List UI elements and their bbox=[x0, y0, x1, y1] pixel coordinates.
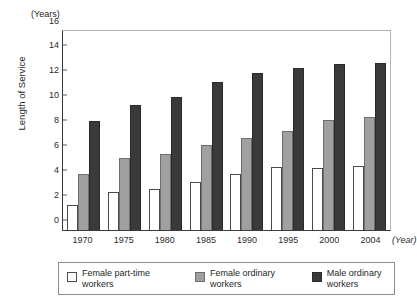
x-axis-tick-label: 2000 bbox=[309, 233, 350, 249]
legend-label-line2: workers bbox=[327, 279, 382, 290]
legend-label-line2: workers bbox=[82, 279, 150, 290]
legend-label-line1: Male ordinary bbox=[327, 268, 382, 278]
legend-entry[interactable]: Male ordinaryworkers bbox=[304, 268, 394, 290]
y-axis-title: Length of Service bbox=[16, 29, 27, 159]
bar[interactable] bbox=[108, 192, 119, 230]
x-axis-unit-label: (Year) bbox=[392, 233, 417, 247]
y-axis-tick: 0 bbox=[54, 214, 63, 225]
x-axis-tick-label: 1990 bbox=[227, 233, 268, 249]
bar[interactable] bbox=[149, 189, 160, 230]
legend-label: Male ordinaryworkers bbox=[327, 268, 382, 290]
bar-group bbox=[104, 31, 145, 230]
chart-legend: Female part-timeworkersFemale ordinarywo… bbox=[58, 262, 395, 295]
x-axis-tick-label: 1975 bbox=[103, 233, 144, 249]
x-axis-ticks: 19701975198019851990199520002004 bbox=[62, 233, 391, 249]
y-axis-tick: 4 bbox=[54, 164, 63, 175]
y-axis-tick: 8 bbox=[54, 114, 63, 125]
legend-swatch-icon bbox=[312, 272, 322, 282]
x-axis-tick-label: 1970 bbox=[62, 233, 103, 249]
y-axis-tick: 12 bbox=[49, 64, 63, 75]
bar[interactable] bbox=[353, 166, 364, 230]
y-axis-tick: 2 bbox=[54, 189, 63, 200]
bar[interactable] bbox=[252, 73, 263, 230]
legend-label-line1: Female part-time bbox=[82, 268, 150, 278]
bar[interactable] bbox=[119, 158, 130, 230]
y-axis-tick-label: 4 bbox=[54, 164, 63, 174]
bars-layer bbox=[63, 31, 390, 230]
plot-area: 1614121086420 bbox=[62, 30, 391, 231]
y-axis-tick: 16 bbox=[49, 15, 63, 26]
bar[interactable] bbox=[312, 168, 323, 230]
y-axis-tick-label: 10 bbox=[49, 90, 63, 100]
y-axis-tick-label: 8 bbox=[54, 115, 63, 125]
bar[interactable] bbox=[364, 117, 375, 230]
bar-group bbox=[349, 31, 390, 230]
bar-group bbox=[186, 31, 227, 230]
y-axis-tick-label: 12 bbox=[49, 65, 63, 75]
bar[interactable] bbox=[334, 64, 345, 230]
bar[interactable] bbox=[67, 205, 78, 230]
x-axis-tick-label: 1995 bbox=[268, 233, 309, 249]
bar[interactable] bbox=[375, 63, 386, 230]
y-axis-tick: 6 bbox=[54, 139, 63, 150]
bar[interactable] bbox=[171, 97, 182, 230]
bar[interactable] bbox=[230, 174, 241, 230]
bar-group bbox=[63, 31, 104, 230]
y-axis-tick-label: 0 bbox=[54, 214, 63, 224]
bar[interactable] bbox=[201, 145, 212, 230]
bar[interactable] bbox=[282, 131, 293, 231]
legend-swatch-icon bbox=[67, 272, 77, 282]
legend-label: Female ordinaryworkers bbox=[210, 268, 275, 290]
y-axis-tick: 10 bbox=[49, 89, 63, 100]
bar-group bbox=[145, 31, 186, 230]
bar-group bbox=[227, 31, 268, 230]
bar-group bbox=[267, 31, 308, 230]
bar[interactable] bbox=[293, 68, 304, 230]
x-axis-tick-label: 1980 bbox=[144, 233, 185, 249]
legend-label-line2: workers bbox=[210, 279, 275, 290]
bar[interactable] bbox=[89, 121, 100, 230]
bar[interactable] bbox=[190, 182, 201, 231]
x-axis-tick-label: 2004 bbox=[350, 233, 391, 249]
legend-label-line1: Female ordinary bbox=[210, 268, 275, 278]
legend-entry[interactable]: Female ordinaryworkers bbox=[187, 268, 304, 290]
bar[interactable] bbox=[271, 167, 282, 230]
legend-swatch-icon bbox=[195, 272, 205, 282]
x-axis-tick-label: 1985 bbox=[185, 233, 226, 249]
y-axis-tick-label: 6 bbox=[54, 139, 63, 149]
y-axis-tick-label: 2 bbox=[54, 189, 63, 199]
bar[interactable] bbox=[212, 82, 223, 230]
bar[interactable] bbox=[241, 138, 252, 230]
chart-figure: (Years) Length of Service 1614121086420 … bbox=[0, 0, 417, 305]
legend-label: Female part-timeworkers bbox=[82, 268, 150, 290]
y-axis-tick-label: 16 bbox=[49, 15, 63, 25]
y-axis-tick: 14 bbox=[49, 39, 63, 50]
bar[interactable] bbox=[130, 105, 141, 230]
y-axis-tick-label: 14 bbox=[49, 40, 63, 50]
bar[interactable] bbox=[323, 120, 334, 230]
bar-group bbox=[308, 31, 349, 230]
legend-entry[interactable]: Female part-timeworkers bbox=[59, 268, 187, 290]
bar[interactable] bbox=[160, 154, 171, 230]
bar[interactable] bbox=[78, 174, 89, 230]
